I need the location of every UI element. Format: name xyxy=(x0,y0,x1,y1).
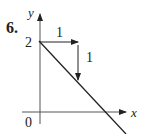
y-intercept-label: 2 xyxy=(25,35,32,50)
problem-number: 6. xyxy=(6,19,18,36)
slope-diagram: 6. y x 2 0 1 1 xyxy=(0,0,144,134)
x-axis-label: x xyxy=(130,105,137,120)
origin-label: 0 xyxy=(25,115,32,130)
diagram-canvas: 6. y x 2 0 1 1 xyxy=(0,0,144,134)
run-label: 1 xyxy=(56,25,63,40)
graph-line xyxy=(39,41,126,134)
y-axis-label: y xyxy=(26,5,34,20)
rise-label: 1 xyxy=(86,50,93,65)
